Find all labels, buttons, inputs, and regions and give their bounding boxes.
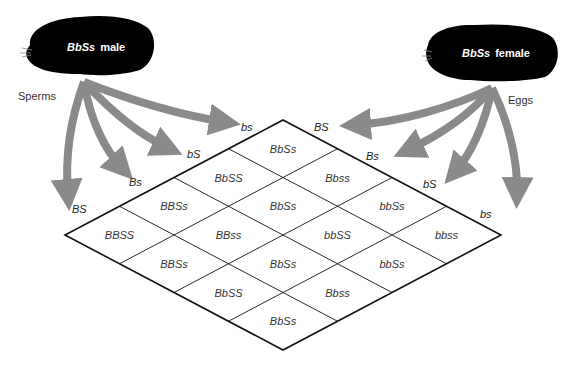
egg-gamete: bs <box>480 208 492 220</box>
cell: BbSS <box>214 287 243 299</box>
arrow-icon <box>84 82 168 148</box>
sperm-gamete: BS <box>72 203 87 215</box>
cell: bbSS <box>324 229 352 241</box>
cell: BBSS <box>105 229 135 241</box>
female-guinea-pig: BbSsfemale <box>422 24 558 81</box>
svg-text:BbSsfemale: BbSsfemale <box>462 47 530 59</box>
sperm-gamete: Bs <box>129 176 142 188</box>
cell: BBSs <box>160 200 188 212</box>
sperm-arrows <box>67 82 225 195</box>
cell: BbSS <box>214 172 243 184</box>
female-genotype: BbSs <box>462 47 490 59</box>
cell: BbSs <box>270 258 297 270</box>
egg-gamete: BS <box>314 121 329 133</box>
cell: bbSs <box>379 200 405 212</box>
male-guinea-pig: BbSsmale <box>20 16 154 75</box>
cell: BBSs <box>160 258 188 270</box>
cell: bbSs <box>379 258 405 270</box>
male-genotype: BbSs <box>67 41 95 53</box>
male-sex: male <box>100 41 125 53</box>
egg-gamete: Bs <box>366 150 379 162</box>
sperms-label: Sperms <box>18 90 56 102</box>
cell: Bbss <box>325 287 350 299</box>
grid-cells: BBSS BBSs BbSS BbSs BBSs BBss BbSs Bbss … <box>105 143 459 328</box>
sperm-gamete: bs <box>241 121 253 133</box>
cell: BbSs <box>270 315 297 327</box>
cell: BbSs <box>270 143 297 155</box>
cell: BBss <box>216 229 242 241</box>
female-sex: female <box>495 47 530 59</box>
cell: BbSs <box>270 200 297 212</box>
cell: Bbss <box>325 172 350 184</box>
sperm-gamete: bS <box>187 148 201 160</box>
egg-gamete: bS <box>423 178 437 190</box>
arrow-icon <box>67 82 84 195</box>
punnett-diagram: BbSsmale Sperms BbSsfemale Eggs BS Bs bS… <box>0 0 574 367</box>
eggs-label: Eggs <box>508 94 534 106</box>
cell: bbss <box>435 229 459 241</box>
